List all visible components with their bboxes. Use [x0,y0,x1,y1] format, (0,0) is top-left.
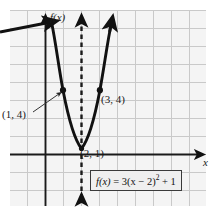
point-1-4 [60,87,66,93]
equation-minus-two: − 2) [138,176,155,187]
equation-equals: = [113,176,119,187]
equation-exponent: 2 [156,173,160,182]
x-axis-label: x [203,157,208,168]
point-label-1-4: (1, 4) [2,109,26,120]
equation-coefficient: 3(x [122,176,136,187]
curve-left-arrow [0,22,52,32]
y-axis-label: f(x) [50,12,65,23]
equation-box: f(x) = 3(x − 2)2 + 1 [90,170,182,191]
parabola-figure: f(x) x (1, 4) (3, 4) (2, 1) f(x) = 3(x −… [0,0,216,215]
equation-plus-one: + 1 [162,176,176,187]
curve-right-arrow [110,22,112,32]
equation-lhs: f(x) [96,176,111,187]
point-label-3-4: (3, 4) [101,94,125,105]
point-label-vertex: (2, 1) [80,148,104,159]
